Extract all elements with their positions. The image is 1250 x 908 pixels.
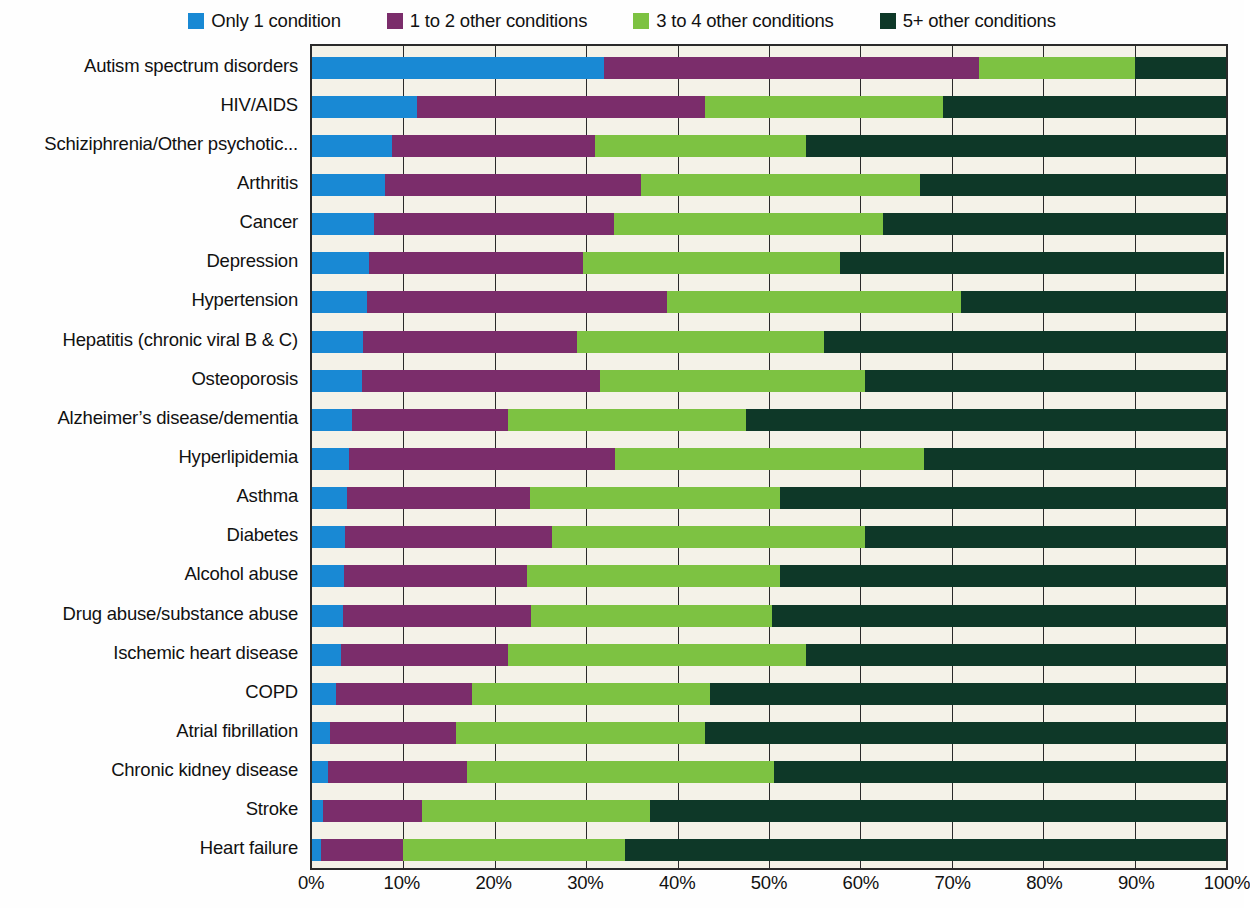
bar-segment[interactable] xyxy=(456,722,705,744)
legend-item-only1[interactable]: Only 1 condition xyxy=(188,10,340,32)
bar-segment[interactable] xyxy=(321,839,403,861)
bar-segment[interactable] xyxy=(312,526,345,548)
legend-item-five_plus[interactable]: 5+ other conditions xyxy=(880,10,1056,32)
bar-row[interactable] xyxy=(312,252,1226,274)
bar-row[interactable] xyxy=(312,683,1226,705)
bar-segment[interactable] xyxy=(349,448,616,470)
bar-segment[interactable] xyxy=(705,96,943,118)
bar-segment[interactable] xyxy=(312,135,392,157)
bar-segment[interactable] xyxy=(780,565,1226,587)
bar-segment[interactable] xyxy=(615,448,924,470)
bar-segment[interactable] xyxy=(472,683,710,705)
bar-segment[interactable] xyxy=(312,839,321,861)
bar-segment[interactable] xyxy=(341,644,508,666)
bar-segment[interactable] xyxy=(312,448,349,470)
bar-segment[interactable] xyxy=(330,722,456,744)
bar-row[interactable] xyxy=(312,800,1226,822)
bar-segment[interactable] xyxy=(363,331,577,353)
bar-segment[interactable] xyxy=(347,487,530,509)
bar-row[interactable] xyxy=(312,174,1226,196)
bar-row[interactable] xyxy=(312,526,1226,548)
bar-segment[interactable] xyxy=(883,213,1226,235)
bar-segment[interactable] xyxy=(531,605,771,627)
bar-segment[interactable] xyxy=(345,526,552,548)
bar-segment[interactable] xyxy=(772,605,1226,627)
bar-segment[interactable] xyxy=(312,565,344,587)
bar-segment[interactable] xyxy=(920,174,1226,196)
bar-segment[interactable] xyxy=(362,370,600,392)
bar-row[interactable] xyxy=(312,135,1226,157)
bar-segment[interactable] xyxy=(344,565,527,587)
bar-segment[interactable] xyxy=(806,644,1226,666)
bar-row[interactable] xyxy=(312,96,1226,118)
bar-row[interactable] xyxy=(312,605,1226,627)
bar-segment[interactable] xyxy=(527,565,780,587)
bar-segment[interactable] xyxy=(312,644,341,666)
bar-row[interactable] xyxy=(312,331,1226,353)
legend-item-three_to_four[interactable]: 3 to 4 other conditions xyxy=(633,10,833,32)
bar-row[interactable] xyxy=(312,448,1226,470)
bar-segment[interactable] xyxy=(604,57,979,79)
bar-row[interactable] xyxy=(312,291,1226,313)
bar-segment[interactable] xyxy=(392,135,596,157)
bar-segment[interactable] xyxy=(780,487,1226,509)
bar-segment[interactable] xyxy=(403,839,625,861)
bar-segment[interactable] xyxy=(577,331,824,353)
bar-segment[interactable] xyxy=(312,370,362,392)
bar-segment[interactable] xyxy=(667,291,961,313)
bar-segment[interactable] xyxy=(312,213,374,235)
bar-segment[interactable] xyxy=(312,331,363,353)
bar-segment[interactable] xyxy=(710,683,1226,705)
bar-row[interactable] xyxy=(312,565,1226,587)
bar-segment[interactable] xyxy=(352,409,508,431)
bar-segment[interactable] xyxy=(328,761,467,783)
bar-segment[interactable] xyxy=(625,839,1225,861)
bar-segment[interactable] xyxy=(336,683,472,705)
bar-segment[interactable] xyxy=(806,135,1226,157)
bar-segment[interactable] xyxy=(467,761,773,783)
bar-segment[interactable] xyxy=(312,291,367,313)
bar-segment[interactable] xyxy=(312,409,352,431)
bar-segment[interactable] xyxy=(343,605,531,627)
bar-segment[interactable] xyxy=(312,683,336,705)
bar-segment[interactable] xyxy=(323,800,422,822)
bar-segment[interactable] xyxy=(650,800,1226,822)
bar-segment[interactable] xyxy=(312,487,347,509)
bar-segment[interactable] xyxy=(979,57,1134,79)
bar-segment[interactable] xyxy=(961,291,1226,313)
bar-segment[interactable] xyxy=(943,96,1226,118)
bar-segment[interactable] xyxy=(417,96,705,118)
bar-segment[interactable] xyxy=(600,370,865,392)
bar-segment[interactable] xyxy=(774,761,1226,783)
bar-row[interactable] xyxy=(312,761,1226,783)
bar-row[interactable] xyxy=(312,213,1226,235)
bar-segment[interactable] xyxy=(508,644,805,666)
bar-segment[interactable] xyxy=(824,331,1226,353)
bar-row[interactable] xyxy=(312,57,1226,79)
bar-segment[interactable] xyxy=(312,761,328,783)
bar-segment[interactable] xyxy=(865,370,1226,392)
bar-segment[interactable] xyxy=(508,409,746,431)
bar-segment[interactable] xyxy=(614,213,884,235)
bar-segment[interactable] xyxy=(865,526,1226,548)
bar-segment[interactable] xyxy=(530,487,780,509)
legend-item-one_to_two[interactable]: 1 to 2 other conditions xyxy=(387,10,587,32)
bar-segment[interactable] xyxy=(422,800,651,822)
bar-segment[interactable] xyxy=(312,96,417,118)
bar-segment[interactable] xyxy=(705,722,1226,744)
bar-segment[interactable] xyxy=(595,135,805,157)
bar-segment[interactable] xyxy=(369,252,584,274)
bar-segment[interactable] xyxy=(312,252,369,274)
bar-row[interactable] xyxy=(312,409,1226,431)
bar-segment[interactable] xyxy=(552,526,865,548)
bar-row[interactable] xyxy=(312,722,1226,744)
bar-segment[interactable] xyxy=(312,57,604,79)
bar-segment[interactable] xyxy=(924,448,1226,470)
bar-segment[interactable] xyxy=(374,213,613,235)
bar-segment[interactable] xyxy=(746,409,1226,431)
bar-segment[interactable] xyxy=(312,605,343,627)
bar-row[interactable] xyxy=(312,644,1226,666)
bar-segment[interactable] xyxy=(312,174,385,196)
bar-row[interactable] xyxy=(312,370,1226,392)
bar-segment[interactable] xyxy=(385,174,641,196)
